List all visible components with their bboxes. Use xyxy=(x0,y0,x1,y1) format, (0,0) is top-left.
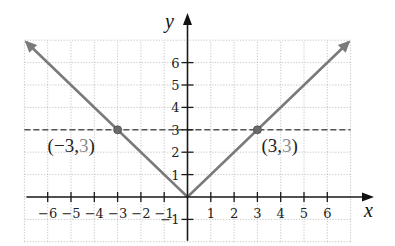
x-tick-label: −2 xyxy=(131,206,150,221)
x-tick-label: −6 xyxy=(38,206,57,221)
y-tick-label: 3 xyxy=(171,123,179,138)
x-tick-label: 6 xyxy=(323,206,331,221)
y-axis xyxy=(182,13,194,241)
point-label: (3,3) xyxy=(261,135,297,157)
y-tick-label: 2 xyxy=(171,145,179,160)
y-tick-label: 5 xyxy=(171,78,179,93)
graph-absolute-value: −6−5−4−3−2−1123456 −1123456 x y (−3,3)(3… xyxy=(0,0,395,246)
y-tick-label: 4 xyxy=(171,100,179,115)
y-axis-label: y xyxy=(163,10,174,33)
x-tick-label: 4 xyxy=(277,206,285,221)
x-tick-label: −4 xyxy=(85,206,104,221)
x-tick-label: −3 xyxy=(108,206,127,221)
point-marker xyxy=(114,126,122,134)
x-tick-label: 3 xyxy=(253,206,261,221)
y-axis-arrow-icon xyxy=(183,13,192,25)
y-tick-label: 1 xyxy=(171,168,179,183)
x-tick-label: −5 xyxy=(61,206,80,221)
x-axis xyxy=(26,192,374,202)
y-tick-label: 6 xyxy=(171,56,179,71)
x-tick-label: 1 xyxy=(207,206,215,221)
y-tick-label: −1 xyxy=(160,212,179,227)
x-tick-label: 2 xyxy=(230,206,238,221)
y-tick-labels: −1123456 xyxy=(160,56,179,228)
point-label: (−3,3) xyxy=(48,135,95,157)
x-tick-label: 5 xyxy=(300,206,308,221)
x-axis-label: x xyxy=(363,199,373,221)
point-marker xyxy=(253,126,261,134)
